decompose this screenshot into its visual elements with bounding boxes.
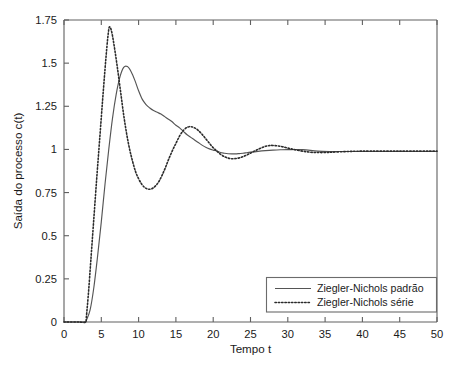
x-axis-label: Tempo t <box>230 342 272 355</box>
y-tick-label: 0.75 <box>35 187 57 199</box>
x-tick-label: 5 <box>98 328 104 340</box>
chart-figure: 00.250.50.7511.251.51.75 051015202530354… <box>0 0 454 369</box>
x-tick-label: 0 <box>61 328 67 340</box>
x-axis-ticks: 05101520253035404550 <box>61 317 443 340</box>
plot-frame <box>64 20 437 322</box>
y-tick-label: 1.5 <box>41 57 57 69</box>
chart-legend[interactable]: Ziegler-Nichols padrão Ziegler-Nichols s… <box>267 278 437 313</box>
x-tick-label: 45 <box>393 328 405 340</box>
y-axis-label: Saída do processo c(t) <box>11 113 24 230</box>
y-tick-label: 1 <box>51 143 57 155</box>
axis-lines <box>64 20 437 322</box>
y-tick-label: 0 <box>51 316 57 328</box>
x-axis-top-ticks <box>64 20 437 25</box>
y-tick-label: 1.25 <box>35 100 57 112</box>
x-tick-label: 50 <box>431 328 443 340</box>
legend-label-serie: Ziegler-Nichols série <box>317 296 414 308</box>
x-tick-label: 30 <box>282 328 294 340</box>
x-tick-label: 15 <box>170 328 182 340</box>
x-tick-label: 10 <box>132 328 144 340</box>
x-tick-label: 20 <box>207 328 219 340</box>
legend-label-padrao: Ziegler-Nichols padrão <box>317 282 424 294</box>
x-tick-label: 25 <box>244 328 256 340</box>
y-tick-label: 0.25 <box>35 273 57 285</box>
x-tick-label: 40 <box>356 328 368 340</box>
x-tick-label: 35 <box>319 328 331 340</box>
step-response-chart: 00.250.50.7511.251.51.75 051015202530354… <box>0 0 454 369</box>
y-tick-label: 0.5 <box>41 230 57 242</box>
y-tick-label: 1.75 <box>35 14 57 26</box>
